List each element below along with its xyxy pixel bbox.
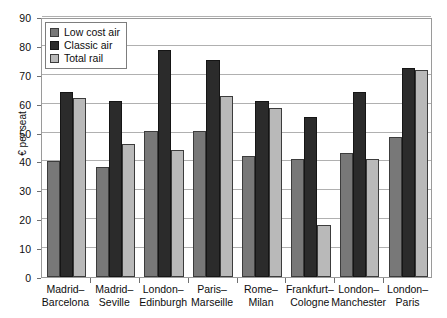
bar (122, 144, 135, 277)
legend-swatch-icon-total-rail (50, 54, 59, 63)
y-tick-label-0: 0 (1, 273, 31, 284)
legend-item-classic-air: Classic air (50, 39, 120, 52)
y-tick-label-40: 40 (1, 157, 31, 168)
bar (171, 150, 184, 277)
bar-group (384, 19, 433, 277)
bar (242, 156, 255, 277)
bar (193, 131, 206, 277)
y-tick-mark-90 (37, 18, 41, 19)
bar (291, 159, 304, 277)
y-tick-label-30: 30 (1, 186, 31, 197)
y-tick-mark-0 (37, 278, 41, 279)
bar (402, 68, 415, 277)
bar (220, 96, 233, 277)
bar (96, 167, 109, 277)
gridline-90 (42, 16, 431, 17)
y-tick-mark-60 (37, 105, 41, 106)
bar (60, 92, 73, 277)
x-tick-label-line: Paris (373, 296, 442, 309)
y-axis-tick-labels: 0102030405060708090 (0, 18, 37, 278)
bar (206, 60, 219, 277)
bar-group (189, 19, 238, 277)
bar (389, 137, 402, 277)
bar (47, 161, 60, 277)
legend-label-classic-air: Classic air (64, 40, 112, 51)
x-tick-label-line: London– (373, 283, 442, 296)
y-tick-label-90: 90 (1, 13, 31, 24)
y-tick-mark-20 (37, 220, 41, 221)
bar (353, 92, 366, 277)
bar (73, 98, 86, 277)
y-tick-mark-10 (37, 249, 41, 250)
bar (415, 70, 428, 277)
legend-item-low-cost-air: Low cost air (50, 26, 120, 39)
y-tick-mark-40 (37, 162, 41, 163)
bar (340, 153, 353, 277)
legend-label-total-rail: Total rail (64, 53, 103, 64)
bar (144, 131, 157, 277)
bar (269, 108, 282, 277)
y-tick-label-50: 50 (1, 128, 31, 139)
bar (158, 50, 171, 277)
bar (366, 159, 379, 277)
bar-group (238, 19, 287, 277)
legend-swatch-icon-classic-air (50, 41, 59, 50)
x-tick-label: London–Paris (373, 283, 442, 308)
y-tick-label-70: 70 (1, 71, 31, 82)
y-tick-mark-30 (37, 191, 41, 192)
bar (255, 101, 268, 277)
bar-group (140, 19, 189, 277)
y-tick-label-10: 10 (1, 244, 31, 255)
legend: Low cost air Classic air Total rail (45, 22, 127, 69)
legend-label-low-cost-air: Low cost air (64, 27, 120, 38)
bar-chart: € per seat 0102030405060708090 Madrid–Ba… (0, 0, 447, 318)
legend-swatch-icon-low-cost-air (50, 28, 59, 37)
y-tick-mark-70 (37, 76, 41, 77)
y-tick-label-80: 80 (1, 42, 31, 53)
x-axis-tick-labels: Madrid–BarcelonaMadrid–SevilleLondon–Edi… (41, 283, 432, 317)
bar-group (286, 19, 335, 277)
y-tick-mark-80 (37, 47, 41, 48)
y-tick-mark-50 (37, 134, 41, 135)
bar (304, 117, 317, 277)
y-tick-label-60: 60 (1, 99, 31, 110)
bar (317, 225, 330, 277)
legend-item-total-rail: Total rail (50, 52, 120, 65)
bar-group (335, 19, 384, 277)
y-tick-label-20: 20 (1, 215, 31, 226)
bar (109, 101, 122, 277)
